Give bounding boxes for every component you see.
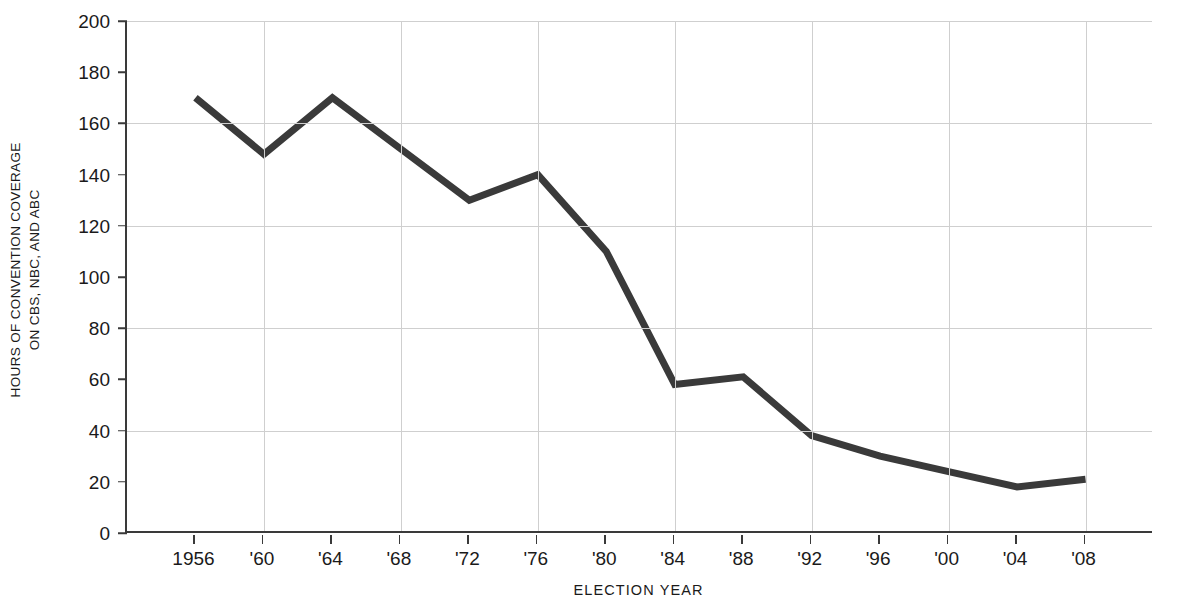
x-tick-label: '92 bbox=[797, 549, 822, 568]
x-tick-mark bbox=[947, 535, 949, 544]
x-tick-mark bbox=[262, 535, 264, 544]
y-tick-label: 140 bbox=[48, 165, 110, 184]
gridline-horizontal bbox=[127, 431, 1152, 432]
x-tick-mark bbox=[1015, 535, 1017, 544]
x-tick-mark bbox=[536, 535, 538, 544]
y-tick-label: 0 bbox=[48, 524, 110, 543]
x-tick-label: '76 bbox=[523, 549, 548, 568]
x-tick-mark bbox=[878, 535, 880, 544]
x-tick-label: '88 bbox=[729, 549, 754, 568]
x-tick-mark bbox=[673, 535, 675, 544]
y-tick-mark bbox=[118, 71, 127, 73]
y-tick-label: 200 bbox=[48, 12, 110, 31]
gridline-vertical bbox=[264, 21, 265, 531]
x-tick-mark bbox=[399, 535, 401, 544]
x-tick-label: '60 bbox=[250, 549, 275, 568]
x-tick-mark bbox=[604, 535, 606, 544]
y-axis-title-line-1: HOURS OF CONVENTION COVERAGE bbox=[8, 142, 25, 397]
y-tick-mark bbox=[118, 327, 127, 329]
gridline-vertical bbox=[1086, 21, 1087, 531]
y-tick-mark bbox=[118, 225, 127, 227]
x-tick-label: '00 bbox=[934, 549, 959, 568]
y-tick-mark bbox=[118, 20, 127, 22]
y-tick-label: 40 bbox=[48, 421, 110, 440]
plot-area bbox=[125, 21, 1152, 533]
y-axis-tick-labels: 020406080100120140160180200 bbox=[48, 0, 110, 616]
y-axis-title-line-2: ON CBS, NBC, AND ABC bbox=[27, 190, 44, 351]
gridline-vertical bbox=[812, 21, 813, 531]
x-tick-label: '80 bbox=[592, 549, 617, 568]
gridline-vertical bbox=[949, 21, 950, 531]
gridline-horizontal bbox=[127, 226, 1152, 227]
x-tick-mark bbox=[467, 535, 469, 544]
data-series-line bbox=[127, 21, 1154, 533]
y-tick-mark bbox=[118, 481, 127, 483]
x-tick-label: '64 bbox=[318, 549, 343, 568]
y-axis-title: HOURS OF CONVENTION COVERAGE ON CBS, NBC… bbox=[0, 0, 52, 540]
chart-figure: HOURS OF CONVENTION COVERAGE ON CBS, NBC… bbox=[0, 0, 1178, 616]
y-tick-mark bbox=[118, 430, 127, 432]
y-tick-mark bbox=[118, 276, 127, 278]
x-axis-tick-labels: 1956'60'64'68'72'76'80'84'88'92'96'00'04… bbox=[125, 535, 1152, 575]
x-tick-mark bbox=[1084, 535, 1086, 544]
x-tick-mark bbox=[193, 535, 195, 544]
y-tick-label: 60 bbox=[48, 370, 110, 389]
x-tick-label: 1956 bbox=[172, 549, 214, 568]
x-tick-mark bbox=[741, 535, 743, 544]
gridline-vertical bbox=[538, 21, 539, 531]
x-axis-title: ELECTION YEAR bbox=[125, 582, 1152, 598]
y-tick-label: 100 bbox=[48, 268, 110, 287]
y-tick-mark bbox=[118, 379, 127, 381]
x-tick-label: '84 bbox=[660, 549, 685, 568]
y-tick-label: 180 bbox=[48, 63, 110, 82]
y-tick-label: 80 bbox=[48, 319, 110, 338]
x-tick-label: '72 bbox=[455, 549, 480, 568]
y-tick-label: 160 bbox=[48, 114, 110, 133]
x-tick-label: '96 bbox=[866, 549, 891, 568]
y-tick-mark bbox=[118, 123, 127, 125]
x-tick-label: '04 bbox=[1003, 549, 1028, 568]
gridline-vertical bbox=[675, 21, 676, 531]
x-tick-mark bbox=[330, 535, 332, 544]
x-tick-mark bbox=[810, 535, 812, 544]
gridline-horizontal bbox=[127, 21, 1152, 22]
gridline-horizontal bbox=[127, 123, 1152, 124]
y-tick-label: 120 bbox=[48, 216, 110, 235]
gridline-horizontal bbox=[127, 328, 1152, 329]
gridline-vertical bbox=[401, 21, 402, 531]
y-tick-mark bbox=[118, 532, 127, 534]
x-tick-label: '08 bbox=[1071, 549, 1096, 568]
y-tick-mark bbox=[118, 174, 127, 176]
y-tick-label: 20 bbox=[48, 472, 110, 491]
x-tick-label: '68 bbox=[386, 549, 411, 568]
